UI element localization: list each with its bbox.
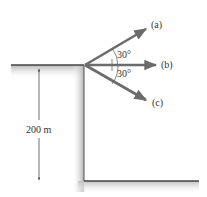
height-label: 200 m	[26, 124, 52, 135]
height-dimension: 200 m	[26, 69, 52, 180]
angle-top-label: 30°	[117, 49, 131, 60]
arrow-a	[85, 29, 146, 65]
arrow-c	[85, 65, 146, 100]
launch-vectors	[85, 29, 156, 100]
projectile-cliff-diagram: 200 m (a) (b) (c) 30° 30°	[0, 0, 207, 197]
label-a: (a)	[151, 19, 162, 31]
ground-shading	[78, 181, 199, 193]
label-c: (c)	[152, 97, 163, 109]
cliff-wall-shading	[72, 65, 84, 192]
angle-bottom-label: 30°	[117, 68, 131, 79]
label-b: (b)	[161, 59, 173, 71]
